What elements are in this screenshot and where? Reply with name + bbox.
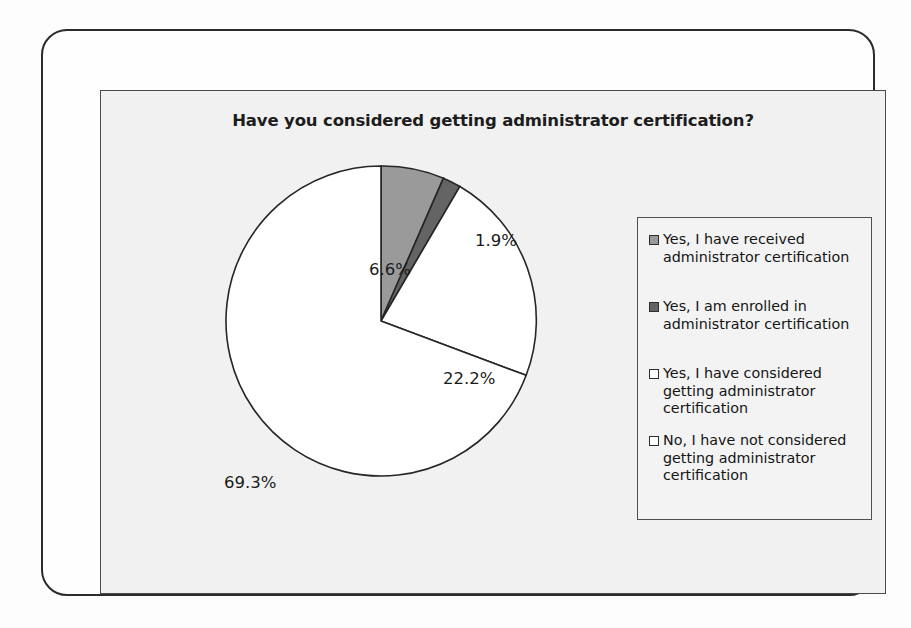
legend-label-no-not-considered: No, I have not considered getting admini…: [663, 432, 864, 485]
legend-label-yes-considered: Yes, I have considered getting administr…: [663, 365, 864, 418]
pie-chart-graphic: [211, 151, 551, 491]
legend-item-no-not-considered[interactable]: No, I have not considered getting admini…: [649, 432, 864, 485]
pie-data-label-yes-received: 6.6%: [369, 260, 411, 279]
chart-legend: Yes, I have received administrator certi…: [637, 217, 872, 520]
legend-swatch-icon-yes-enrolled: [649, 302, 659, 312]
chart-plot-area: Have you considered getting administrato…: [100, 90, 886, 594]
pie-data-label-no-not-considered: 69.3%: [224, 473, 276, 492]
legend-swatch-icon-yes-received: [649, 235, 659, 245]
legend-item-yes-enrolled[interactable]: Yes, I am enrolled in administrator cert…: [649, 298, 864, 333]
legend-swatch-icon-yes-considered: [649, 369, 659, 379]
legend-item-yes-received[interactable]: Yes, I have received administrator certi…: [649, 231, 864, 266]
legend-swatch-icon-no-not-considered: [649, 436, 659, 446]
pie-data-label-yes-enrolled: 1.9%: [475, 231, 517, 250]
pie-svg: [211, 151, 551, 491]
legend-label-yes-enrolled: Yes, I am enrolled in administrator cert…: [663, 298, 864, 333]
pie-data-label-yes-considered: 22.2%: [443, 369, 495, 388]
outer-rounded-frame: Have you considered getting administrato…: [41, 29, 875, 596]
chart-title: Have you considered getting administrato…: [101, 111, 885, 130]
page-canvas: Have you considered getting administrato…: [0, 0, 911, 628]
legend-item-yes-considered[interactable]: Yes, I have considered getting administr…: [649, 365, 864, 418]
legend-label-yes-received: Yes, I have received administrator certi…: [663, 231, 864, 266]
